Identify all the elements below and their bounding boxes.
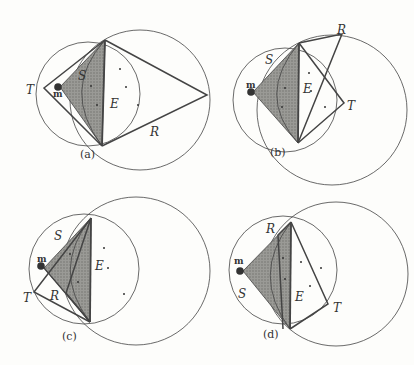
caption-c: (c): [62, 330, 77, 343]
label-S-d: S: [238, 287, 246, 301]
chord: [290, 222, 291, 329]
label-R-c: R: [49, 289, 59, 303]
label-T-d: T: [333, 301, 342, 315]
label-R-a: R: [149, 125, 159, 139]
label-E-d: E: [294, 290, 304, 304]
panel-d: [229, 202, 408, 346]
label-E-b: E: [302, 82, 312, 96]
label-T-b: T: [347, 99, 356, 113]
figure-four-panels: T S E R m (a) R S E T m (b): [0, 0, 414, 365]
label-m-d: m: [234, 256, 244, 266]
panel-c: [29, 197, 210, 345]
label-m-b: m: [246, 80, 256, 90]
chord: [90, 218, 91, 322]
shaded-region: [60, 40, 105, 146]
m-point: [236, 267, 244, 275]
label-m-a: m: [53, 89, 63, 99]
shaded-region: [253, 43, 299, 143]
triangle-T: [290, 222, 328, 329]
chord: [298, 43, 299, 143]
caption-b: (b): [270, 146, 286, 159]
label-S-a: S: [78, 69, 86, 83]
label-S-b: S: [265, 53, 273, 67]
label-m-c: m: [37, 254, 47, 264]
label-R-b: R: [336, 23, 346, 37]
panel-a: [36, 30, 210, 170]
caption-a: (a): [80, 148, 95, 161]
label-E-a: E: [109, 97, 119, 111]
label-T-c: T: [23, 291, 32, 305]
panel-b: [233, 34, 407, 185]
label-R-d: R: [265, 222, 275, 236]
caption-d: (d): [263, 328, 279, 341]
label-E-c: E: [94, 259, 104, 273]
label-S-c: S: [54, 229, 62, 243]
label-T-a: T: [26, 83, 35, 97]
